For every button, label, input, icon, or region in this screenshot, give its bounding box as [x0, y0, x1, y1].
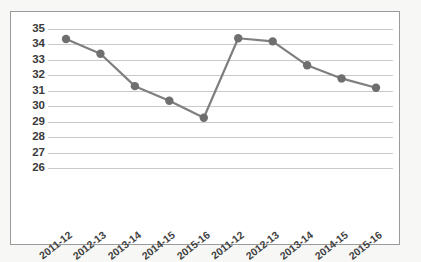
y-axis-tick-label: 32	[23, 70, 45, 82]
x-axis: 2011-122012-132013-142014-152015-162011-…	[48, 182, 393, 244]
y-axis-tick-label: 30	[23, 100, 45, 112]
data-line	[66, 38, 376, 118]
plot-area: 35343332313029282726 2011-12: 34.352012-…	[11, 12, 399, 244]
data-point-marker: 2013-14: 32.65	[303, 61, 311, 69]
y-axis-tick-label: 27	[23, 147, 45, 159]
data-point-marker: 2013-14: 31.3	[131, 82, 139, 90]
y-axis-tick-label: 28	[23, 131, 45, 143]
data-point-marker: 2015-16: 29.25	[200, 114, 208, 122]
data-point-marker: 2012-13: 33.4	[96, 50, 104, 58]
chart-frame: 35343332313029282726 2011-12: 34.352012-…	[10, 11, 400, 245]
data-point-marker: 2011-12: 34.4	[234, 34, 242, 42]
data-point-marker: 2014-15: 30.35	[165, 97, 173, 105]
data-point-marker: 2014-15: 31.8	[337, 74, 345, 82]
y-axis-tick-label: 34	[23, 39, 45, 51]
y-axis: 35343332313029282726	[23, 12, 45, 244]
y-axis-tick-label: 31	[23, 85, 45, 97]
y-axis-tick-label: 35	[23, 23, 45, 35]
data-point-marker: 2012-13: 34.2	[268, 37, 276, 45]
y-axis-tick-label: 26	[23, 162, 45, 174]
y-axis-tick-label: 29	[23, 116, 45, 128]
y-axis-tick-label: 33	[23, 54, 45, 66]
data-point-marker: 2015-16: 31.2	[372, 83, 380, 91]
data-point-marker: 2011-12: 34.35	[62, 35, 70, 43]
